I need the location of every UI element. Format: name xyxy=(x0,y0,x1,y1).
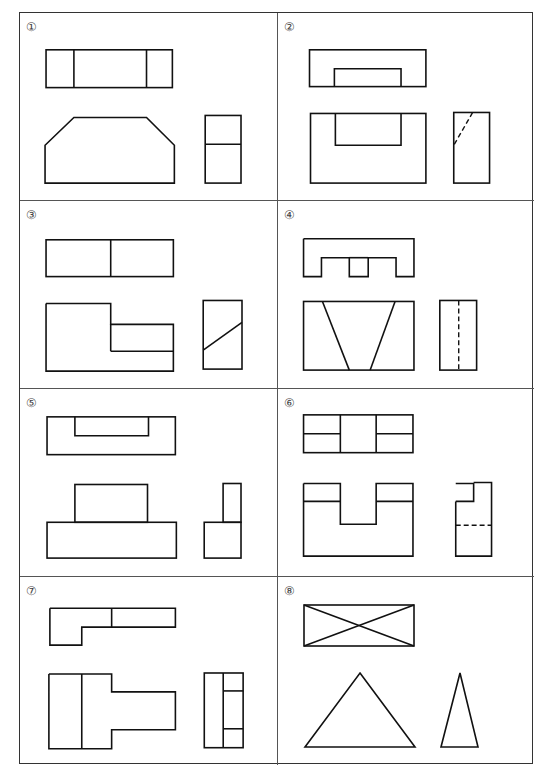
orthographic-views-1 xyxy=(20,13,277,200)
problem-panel-1: ① xyxy=(20,13,278,201)
orthographic-views-3 xyxy=(20,201,277,388)
problem-panel-2: ② xyxy=(278,13,534,201)
problem-panel-8: ⑧ xyxy=(278,577,534,765)
problem-panel-7: ⑦ xyxy=(20,577,278,765)
worksheet-frame: ① ② ③ xyxy=(19,12,533,764)
orthographic-views-2 xyxy=(278,13,534,200)
orthographic-views-5 xyxy=(20,389,277,576)
problem-panel-5: ⑤ xyxy=(20,389,278,577)
problem-panel-3: ③ xyxy=(20,201,278,389)
orthographic-views-8 xyxy=(278,577,534,765)
problem-grid: ① ② ③ xyxy=(20,13,532,763)
orthographic-views-6 xyxy=(278,389,534,576)
orthographic-views-7 xyxy=(20,577,277,765)
problem-panel-6: ⑥ xyxy=(278,389,534,577)
orthographic-views-4 xyxy=(278,201,534,388)
problem-panel-4: ④ xyxy=(278,201,534,389)
